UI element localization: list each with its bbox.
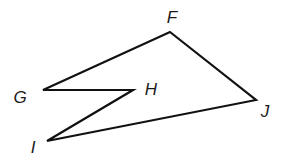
polygon-diagram bbox=[0, 0, 285, 165]
vertex-label-j: J bbox=[261, 103, 270, 120]
vertex-label-i: I bbox=[31, 139, 36, 156]
vertex-label-g: G bbox=[13, 89, 26, 106]
vertex-label-h: H bbox=[145, 81, 157, 98]
vertex-label-f: F bbox=[167, 9, 177, 26]
